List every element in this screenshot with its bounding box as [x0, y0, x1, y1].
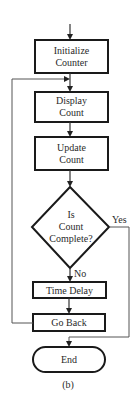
node-label-line: Complete?	[49, 233, 93, 244]
node-label-line: Update	[57, 142, 86, 153]
arrow-decision-no-to-delay: No	[67, 268, 86, 282]
node-initialize-counter: Initialize Counter	[35, 40, 108, 73]
arrow-update-to-decision	[67, 170, 73, 187]
node-label-line: End	[61, 354, 77, 365]
arrow-delay-to-goback	[66, 298, 72, 314]
node-label-line: Count	[59, 107, 84, 118]
node-update-count: Update Count	[35, 137, 108, 170]
node-label-line: Display	[56, 95, 87, 106]
edge-label-yes: Yes	[112, 214, 127, 225]
edge-label-no: No	[74, 268, 86, 279]
node-decision-count-complete: Is Count Complete?	[32, 187, 109, 268]
arrow-initialize-to-display	[67, 73, 73, 92]
node-label-line: Count	[59, 154, 84, 165]
node-end: End	[33, 347, 105, 372]
figure-caption: (b)	[62, 379, 74, 391]
node-go-back: Go Back	[33, 314, 105, 331]
node-label-line: Time Delay	[46, 285, 93, 296]
flowchart: Initialize Counter Display Count Update …	[0, 0, 137, 407]
node-label-line: Initialize	[54, 45, 90, 56]
arrow-display-to-update	[67, 122, 73, 137]
entry-arrow	[67, 24, 73, 40]
node-display-count: Display Count	[35, 92, 108, 122]
node-label-line: Count	[59, 221, 84, 232]
node-label-line: Counter	[55, 57, 88, 68]
node-time-delay: Time Delay	[33, 282, 106, 298]
node-label-line: Is	[67, 209, 74, 220]
node-label-line: Go Back	[51, 317, 86, 328]
